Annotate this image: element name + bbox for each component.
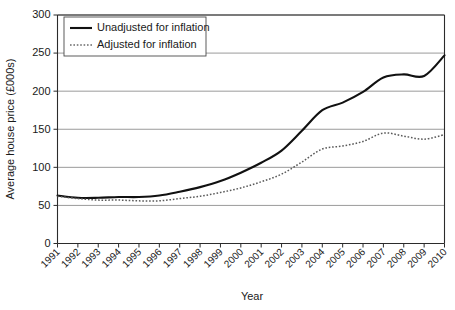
x-tick-label-2010: 2010	[425, 246, 449, 270]
y-tick-label-300: 300	[32, 8, 50, 20]
x-tick-label-2002: 2002	[262, 246, 286, 270]
house-price-line-chart: 050100150200250300 199119921993199419951…	[0, 0, 455, 310]
x-tick-label-2006: 2006	[344, 246, 368, 270]
y-axis-ticks: 050100150200250300	[32, 8, 57, 249]
legend-label-adjusted: Adjusted for inflation	[97, 38, 197, 50]
y-tick-label-0: 0	[44, 237, 50, 249]
x-tick-label-1991: 1991	[38, 246, 62, 270]
legend-label-unadjusted: Unadjusted for inflation	[97, 21, 210, 33]
series-line-unadjusted	[58, 55, 445, 198]
y-tick-label-250: 250	[32, 46, 50, 58]
x-tick-label-1993: 1993	[79, 246, 103, 270]
chart-legend: Unadjusted for inflationAdjusted for inf…	[64, 17, 210, 56]
y-axis-title: Average house price (£000s)	[4, 58, 16, 199]
y-tick-label-200: 200	[32, 85, 50, 97]
y-tick-label-100: 100	[32, 161, 50, 173]
x-tick-label-1998: 1998	[181, 246, 205, 270]
x-tick-label-2005: 2005	[324, 246, 348, 270]
x-tick-label-2000: 2000	[222, 246, 246, 270]
x-tick-label-1996: 1996	[140, 246, 164, 270]
x-tick-label-1994: 1994	[100, 246, 124, 270]
x-tick-label-2004: 2004	[303, 246, 327, 270]
y-tick-label-150: 150	[32, 123, 50, 135]
x-tick-label-1995: 1995	[120, 246, 144, 270]
x-axis-title: Year	[241, 290, 264, 302]
x-tick-label-2008: 2008	[385, 246, 409, 270]
x-tick-label-1992: 1992	[59, 246, 83, 270]
x-tick-label-1999: 1999	[201, 246, 225, 270]
x-tick-label-1997: 1997	[161, 246, 185, 270]
y-tick-label-50: 50	[38, 199, 50, 211]
data-series	[58, 55, 445, 201]
x-tick-label-2009: 2009	[405, 246, 429, 270]
x-tick-label-2003: 2003	[283, 246, 307, 270]
x-tick-label-2007: 2007	[364, 246, 388, 270]
chart-container: 050100150200250300 199119921993199419951…	[0, 0, 455, 310]
x-tick-label-2001: 2001	[242, 246, 266, 270]
x-axis-ticks: 1991199219931994199519961997199819992000…	[38, 244, 449, 270]
